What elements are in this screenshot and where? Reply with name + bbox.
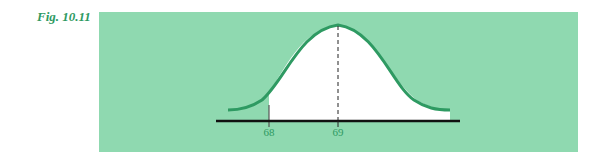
tick-label-68: 68	[264, 126, 276, 138]
normal-curve-diagram: 68 69	[0, 0, 607, 162]
tick-label-69: 69	[333, 126, 345, 138]
